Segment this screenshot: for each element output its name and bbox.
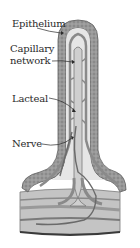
- villus-diagram: Epithelium Capillary network Lacteal Ner…: [0, 0, 140, 248]
- label-nerve: Nerve: [12, 139, 42, 149]
- label-lacteal: Lacteal: [12, 94, 48, 104]
- label-epithelium: Epithelium: [12, 19, 66, 29]
- villus-illustration: [0, 0, 140, 248]
- label-capillary-line1: Capillary: [10, 44, 54, 54]
- label-capillary-line2: network: [10, 56, 50, 66]
